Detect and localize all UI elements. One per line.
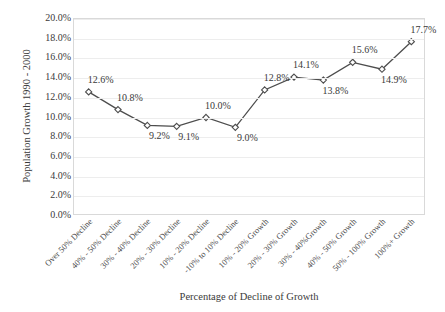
data-point-marker[interactable] [86, 89, 92, 95]
data-point-label: 17.7% [410, 25, 436, 35]
y-axis-tick-label: 14.0% [29, 72, 71, 82]
gridline [74, 39, 424, 40]
data-point-label: 14.1% [293, 60, 319, 70]
data-point-marker[interactable] [350, 59, 356, 65]
data-point-marker[interactable] [174, 123, 180, 129]
gridline [74, 58, 424, 59]
data-point-label: 9.0% [237, 133, 258, 143]
y-axis-tick-label: 12.0% [29, 92, 71, 102]
y-axis-tick-label: 10.0% [29, 112, 71, 122]
data-point-label: 14.9% [381, 75, 407, 85]
data-point-marker[interactable] [144, 122, 150, 128]
data-point-label: 12.8% [264, 73, 290, 83]
y-axis-tick-label: 4.0% [29, 171, 71, 181]
data-point-label: 15.6% [352, 45, 378, 55]
y-axis-tick-label: 16.0% [29, 52, 71, 62]
x-axis-tick-labels: Over 50% Decline40% - 50% Decline30% - 4… [73, 217, 425, 287]
gridline [74, 196, 424, 197]
y-axis-tick-label: 6.0% [29, 151, 71, 161]
data-point-label: 13.8% [322, 86, 348, 96]
gridline [74, 118, 424, 119]
gridline [74, 157, 424, 158]
gridline [74, 78, 424, 79]
y-axis-tick-label: 18.0% [29, 33, 71, 43]
data-point-label: 12.6% [88, 75, 114, 85]
gridline [74, 19, 424, 20]
y-axis-tick-label: 8.0% [29, 131, 71, 141]
data-point-marker[interactable] [115, 107, 121, 113]
gridline [74, 177, 424, 178]
chart-figure: Population Growth 1990 - 2000 0.0%2.0%4.… [0, 0, 445, 312]
data-point-label: 9.2% [149, 131, 170, 141]
y-axis-tick-label: 2.0% [29, 190, 71, 200]
data-point-label: 9.1% [178, 132, 199, 142]
data-point-label: 10.0% [205, 101, 231, 111]
y-axis-tick-label: 0.0% [29, 210, 71, 220]
data-point-label: 10.8% [117, 93, 143, 103]
y-axis-tick-label: 20.0% [29, 13, 71, 23]
x-axis-title: Percentage of Decline of Growth [73, 290, 425, 303]
